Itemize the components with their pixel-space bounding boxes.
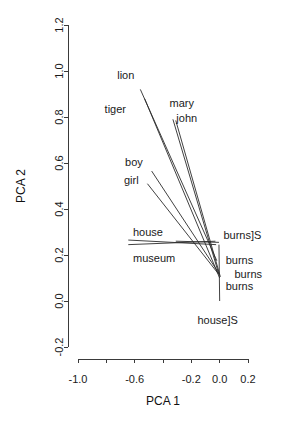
- x-axis-title: PCA 1: [146, 394, 180, 408]
- y-tick-label-5: 0.8: [53, 109, 65, 124]
- x-tick-label-4: -0.2: [182, 373, 201, 385]
- point-label-house-6: house: [133, 226, 163, 238]
- y-tick-label-2: 0.2: [53, 247, 65, 262]
- point-label-burns-9: burns: [226, 254, 254, 266]
- x-tick-label-5: 0.0: [212, 373, 227, 385]
- mary-vector: [173, 119, 219, 274]
- tiger-vector: [145, 99, 220, 278]
- point-label-girl-5: girl: [124, 174, 139, 186]
- point-label-mary-2: mary: [170, 97, 195, 109]
- x-tick-label-2: -0.6: [125, 373, 144, 385]
- point-label-tiger-1: tiger: [105, 103, 127, 115]
- y-tick-label-7: 1.2: [53, 17, 65, 32]
- y-tick-label-0: -0.2: [53, 338, 65, 357]
- point-label-john-3: john: [175, 112, 197, 124]
- point-label-burns-11: burns: [226, 280, 254, 292]
- y-axis-title: PCA 2: [14, 169, 28, 203]
- y-tick-label-1: 0.0: [53, 293, 65, 308]
- y-tick-label-3: 0.4: [53, 201, 65, 216]
- plot-canvas: -0.20.00.20.40.60.81.01.2PCA 2-1.0-0.6-0…: [0, 0, 304, 431]
- x-tick-label-0: -1.0: [69, 373, 88, 385]
- pca-biplot: -0.20.00.20.40.60.81.01.2PCA 2-1.0-0.6-0…: [0, 0, 304, 431]
- point-label-burnsS-8: burns]S: [223, 229, 261, 241]
- y-tick-label-4: 0.6: [53, 155, 65, 170]
- point-label-boy-4: boy: [125, 156, 143, 168]
- john-vector: [176, 120, 221, 276]
- x-tick-label-6: 0.2: [240, 373, 255, 385]
- y-tick-label-6: 1.0: [53, 63, 65, 78]
- point-label-houseS-12: house]S: [197, 314, 237, 326]
- point-label-lion-0: lion: [117, 69, 134, 81]
- vertical-drop-vector: [219, 245, 220, 301]
- point-label-museum-7: museum: [133, 252, 175, 264]
- point-label-burns-10: burns: [235, 268, 263, 280]
